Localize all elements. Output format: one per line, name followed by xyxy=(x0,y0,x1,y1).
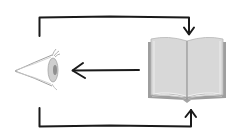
eye-icon xyxy=(15,49,60,90)
bottom-loop-arrow xyxy=(40,108,197,127)
top-loop-arrow xyxy=(40,17,195,37)
book-to-eye-arrow xyxy=(73,63,140,78)
open-book-icon xyxy=(148,37,226,103)
diagram-canvas xyxy=(0,0,240,138)
